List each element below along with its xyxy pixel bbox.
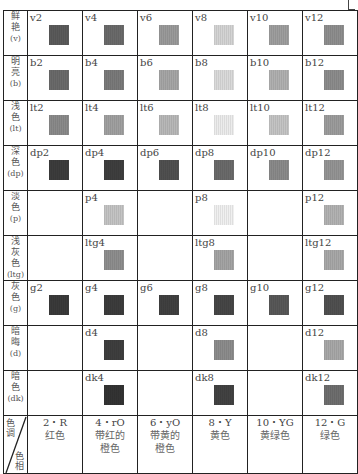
hue-header: 2・R红色 [28,416,83,474]
color-code: lt2 [30,102,44,113]
corner-mark [348,0,355,10]
color-code: lt4 [85,102,99,113]
tone-label: 暗 晦(d) [4,326,28,371]
color-swatch [324,340,344,360]
hue-name: 黄绿色 [248,429,302,442]
tone-label: 淡 色(p) [4,191,28,236]
color-cell: dk12 [303,371,358,416]
tone-label: 浅 灰 色(ltg) [4,236,28,281]
color-swatch [324,250,344,270]
color-swatch [104,160,124,180]
color-swatch [324,115,344,135]
color-cell [248,236,303,281]
color-swatch [159,295,179,315]
color-code: v12 [305,12,323,23]
color-code: lt6 [140,102,154,113]
color-swatch [104,340,124,360]
color-code: v6 [140,12,152,23]
color-cell: b12 [303,56,358,101]
tone-abbr: (g) [4,303,27,314]
tone-name: 浅 色 [4,101,27,123]
hue-code: 4・rO [83,416,137,429]
color-swatch [104,25,124,45]
color-swatch [104,295,124,315]
tone-label: 鲜 艳(v) [4,11,28,56]
color-cell: g4 [83,281,138,326]
color-cell: v2 [28,11,83,56]
tone-row: 暗 色(dk)dk4dk8dk12 [4,371,358,416]
hue-header: 4・rO带红的 橙色 [83,416,138,474]
color-code: b12 [305,57,324,68]
color-cell: d4 [83,326,138,371]
color-code: g6 [140,282,153,293]
tone-name: 浅 灰 色 [4,236,27,269]
color-cell: dp8 [193,146,248,191]
color-code: dk4 [85,372,104,383]
color-cell: lt8 [193,101,248,146]
color-code: g2 [30,282,43,293]
hue-name: 黄色 [193,429,247,442]
color-swatch [159,160,179,180]
color-code: dp2 [30,147,49,158]
color-swatch [49,115,69,135]
color-cell [138,191,193,236]
color-swatch [269,70,289,90]
color-swatch [214,295,234,315]
color-code: g12 [305,282,324,293]
tone-abbr: (dk) [4,393,27,404]
color-swatch [214,160,234,180]
color-cell: v8 [193,11,248,56]
color-cell [248,326,303,371]
color-cell: dp2 [28,146,83,191]
color-cell: p4 [83,191,138,236]
hue-header: 6・yO带黄的 橙色 [138,416,193,474]
color-code: dk12 [305,372,330,383]
hue-name: 带黄的 橙色 [138,429,192,455]
tone-row: 浅 灰 色(ltg)ltg4ltg8ltg12 [4,236,358,281]
tone-row: 鲜 艳(v)v2v4v6v8v10v12 [4,11,358,56]
color-swatch [49,295,69,315]
color-swatch [104,385,124,405]
hue-axis-label: 色 相 [15,451,25,471]
tone-abbr: (p) [4,213,27,224]
color-code: lt10 [250,102,270,113]
color-cell: lt4 [83,101,138,146]
corner-header: 色 调色 相 [4,416,28,474]
color-code: dp4 [85,147,104,158]
color-swatch [324,25,344,45]
color-code: ltg8 [195,237,215,248]
hue-code: 8・Y [193,416,247,429]
color-cell: b4 [83,56,138,101]
tone-abbr: (ltg) [4,269,27,280]
tone-label: 深 色(dp) [4,146,28,191]
color-code: v10 [250,12,268,23]
tone-row: 暗 晦(d)d4d8d12 [4,326,358,371]
color-code: dp10 [250,147,276,158]
color-code: ltg12 [305,237,331,248]
color-swatch [49,160,69,180]
color-swatch [214,340,234,360]
hue-name: 绿色 [303,429,357,442]
color-swatch [159,25,179,45]
color-swatch [104,205,124,225]
tone-row: 深 色(dp)dp2dp4dp6dp8dp10dp12 [4,146,358,191]
color-code: g10 [250,282,269,293]
hue-name: 带红的 橙色 [83,429,137,455]
hue-code: 2・R [28,416,82,429]
color-code: dp6 [140,147,159,158]
color-cell: g10 [248,281,303,326]
color-code: dp12 [305,147,331,158]
color-cell: dk8 [193,371,248,416]
color-code: b2 [30,57,43,68]
color-cell: dp10 [248,146,303,191]
tone-name: 暗 色 [4,371,27,393]
tone-name: 暗 晦 [4,326,27,348]
color-cell [248,371,303,416]
color-cell: d8 [193,326,248,371]
tone-abbr: (lt) [4,123,27,134]
color-swatch [214,385,234,405]
color-cell: dp6 [138,146,193,191]
color-swatch [324,295,344,315]
color-swatch [324,160,344,180]
color-code: d8 [195,327,208,338]
